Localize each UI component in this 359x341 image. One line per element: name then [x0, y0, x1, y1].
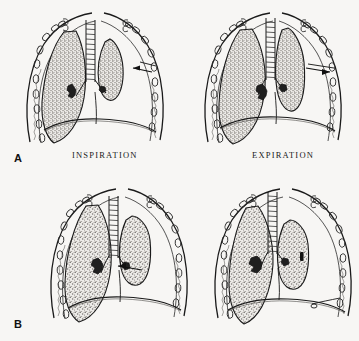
caption-inspiration: INSPIRATION [72, 150, 138, 160]
caption-expiration: EXPIRATION [252, 150, 314, 160]
panel-letter-b: B [14, 318, 22, 330]
thorax-illustration-svg [0, 0, 359, 341]
panel-letter-a: A [14, 152, 22, 164]
lung-field-right [278, 220, 309, 289]
lung-marker-wedge [300, 252, 304, 261]
lung-field-right [120, 216, 151, 285]
thorax-figure: INSPIRATION EXPIRATION A B [0, 0, 359, 341]
